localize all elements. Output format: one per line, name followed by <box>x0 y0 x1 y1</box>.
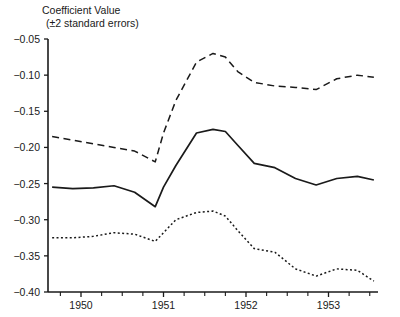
chart-series-solid <box>52 129 374 206</box>
chart-series-group <box>52 53 374 281</box>
y-tick-label: −0.10 <box>13 69 40 81</box>
y-tick-label: −0.25 <box>13 178 40 190</box>
x-tick-label: 1950 <box>69 299 93 311</box>
chart-series-dotted <box>52 211 374 281</box>
chart-series-dashed <box>52 53 374 161</box>
x-axis-labels: 1950195119521953 <box>69 299 340 311</box>
chart-plot-area: −0.05−0.10−0.15−0.20−0.25−0.30−0.35−0.40… <box>0 0 400 317</box>
x-tick-label: 1952 <box>234 299 258 311</box>
y-tick-label: −0.20 <box>13 141 40 153</box>
x-tick-label: 1951 <box>152 299 176 311</box>
y-tick-label: −0.05 <box>13 33 40 45</box>
chart-container: Coefficient Value(±2 standard errors) −0… <box>0 0 400 317</box>
y-tick-label: −0.40 <box>13 286 40 298</box>
y-axis-labels: −0.05−0.10−0.15−0.20−0.25−0.30−0.35−0.40 <box>13 33 40 298</box>
y-tick-label: −0.15 <box>13 105 40 117</box>
y-tick-label: −0.30 <box>13 214 40 226</box>
y-tick-label: −0.35 <box>13 250 40 262</box>
x-tick-label: 1953 <box>317 299 341 311</box>
